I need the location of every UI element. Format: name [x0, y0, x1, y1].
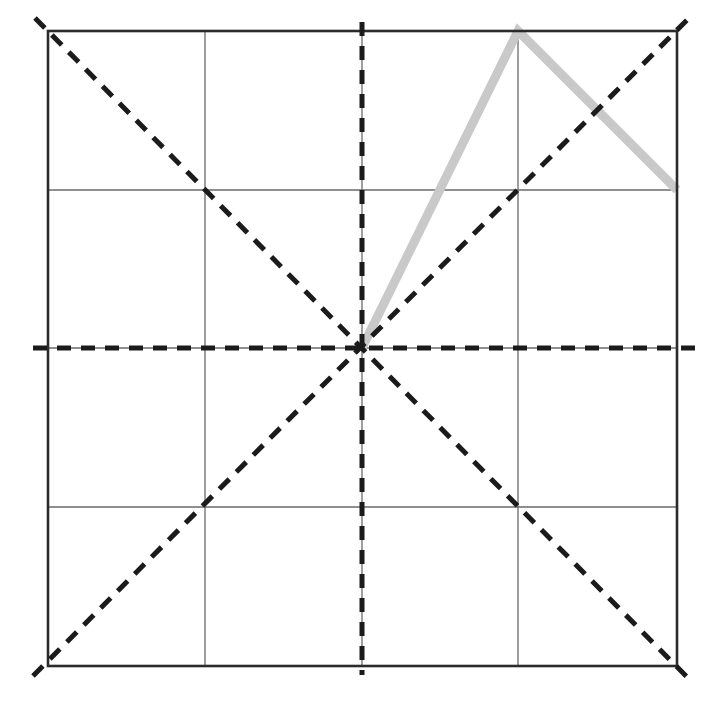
folding-diagram — [0, 0, 719, 707]
diagram-canvas — [0, 0, 719, 707]
